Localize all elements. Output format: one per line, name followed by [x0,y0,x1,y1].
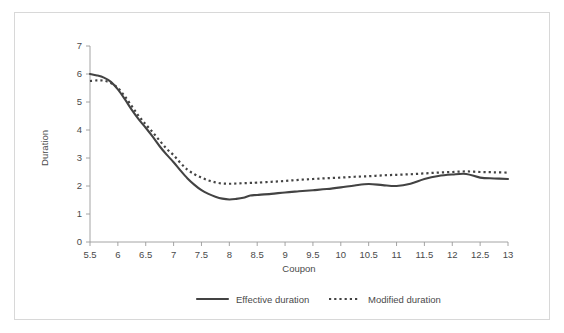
x-tick-label: 11.5 [416,249,434,260]
x-tick-label: 11 [392,249,402,260]
x-tick-label: 12.5 [471,249,490,260]
x-tick-label: 10 [336,249,347,260]
duration-vs-coupon-chart: 01234567 5.566.577.588.599.51010.51111.5… [0,0,564,333]
x-tick-label: 13 [503,249,514,260]
plot-series [90,74,508,199]
chart-legend: Effective duration Modified duration [197,294,441,305]
y-tick-label: 6 [77,68,82,79]
axes [86,46,508,246]
y-tick-label: 0 [77,236,82,247]
x-tick-label: 8 [227,249,232,260]
x-axis-tick-labels: 5.566.577.588.599.51010.51111.51212.513 [83,249,513,260]
legend-label-modified-duration: Modified duration [368,294,441,305]
legend-label-effective-duration: Effective duration [236,294,309,305]
y-axis-tick-labels: 01234567 [77,40,82,247]
y-tick-label: 5 [77,96,82,107]
series-effective-duration [90,74,508,199]
x-tick-label: 7.5 [195,249,208,260]
x-tick-label: 6.5 [139,249,152,260]
y-axis-ticks [86,46,90,242]
x-tick-label: 9 [282,249,287,260]
y-tick-label: 7 [77,40,82,51]
y-tick-label: 4 [77,124,82,135]
y-axis-title: Duration [39,130,50,166]
y-tick-label: 2 [77,180,82,191]
x-tick-label: 6 [115,249,120,260]
x-axis-ticks [90,242,508,246]
x-tick-label: 8.5 [251,249,264,260]
chart-figure: 01234567 5.566.577.588.599.51010.51111.5… [0,0,564,333]
x-tick-label: 7 [171,249,176,260]
x-tick-label: 10.5 [359,249,378,260]
series-modified-duration [90,80,508,183]
x-axis-title: Coupon [282,263,315,274]
x-tick-label: 5.5 [83,249,96,260]
y-tick-label: 1 [77,208,82,219]
x-tick-label: 9.5 [306,249,319,260]
y-tick-label: 3 [77,152,82,163]
x-tick-label: 12 [447,249,458,260]
